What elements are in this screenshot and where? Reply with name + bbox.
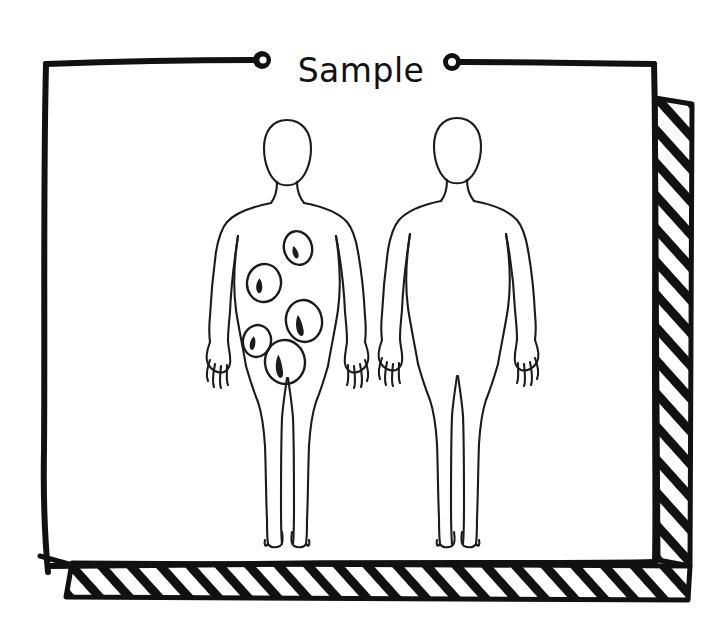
right-pin-marker: [443, 53, 461, 71]
paper-background: [0, 0, 722, 633]
left-figure-finger-r4: [347, 365, 348, 385]
frame-edge-right: [654, 64, 655, 562]
right-figure-finger-r4: [517, 363, 518, 383]
left-figure-finger-l4: [227, 365, 228, 385]
frame-edge-bottom: [48, 562, 655, 566]
right-figure-finger-l3: [392, 364, 393, 386]
shadow-band-right: [655, 98, 692, 566]
shadow-band-bottom: [66, 563, 690, 600]
right-figure-finger-r3: [524, 364, 525, 386]
left-figure-finger-r3: [354, 366, 355, 388]
frame-edge-top-right: [461, 62, 654, 64]
left-figure-finger-l3: [220, 366, 221, 388]
left-pin-marker: [253, 51, 271, 69]
diagram-title: Sample: [298, 51, 425, 90]
sketch-diagram-canvas: Sample: [0, 0, 722, 633]
diagram-svg: Sample: [0, 0, 722, 633]
right-figure-finger-l4: [399, 363, 400, 383]
